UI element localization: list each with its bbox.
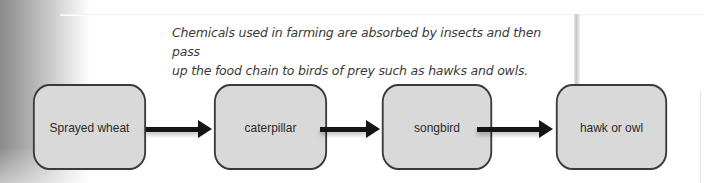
- arrow-caterpillar-to-songbird: [320, 125, 382, 133]
- caption-line-1: Chemicals used in farming are absorbed b…: [172, 23, 572, 61]
- page-top-edge: [60, 14, 704, 16]
- page-right-edge: [700, 90, 701, 183]
- node-songbird: songbird: [382, 84, 492, 170]
- node-sprayed-wheat: Sprayed wheat: [33, 84, 146, 170]
- page-fold-divider: [574, 14, 580, 86]
- node-label: Sprayed wheat: [50, 120, 130, 135]
- node-label: hawk or owl: [580, 120, 643, 135]
- arrow-shaft: [477, 127, 541, 132]
- node-label: songbird: [414, 120, 460, 135]
- node-label: caterpillar: [245, 120, 297, 135]
- arrow-songbird-to-hawk: [477, 125, 555, 133]
- arrow-shaft: [320, 127, 368, 132]
- arrow-wheat-to-caterpillar: [146, 125, 212, 133]
- diagram-caption: Chemicals used in farming are absorbed b…: [172, 23, 572, 80]
- arrow-shaft: [146, 127, 200, 132]
- arrow-head-icon: [198, 120, 212, 138]
- node-hawk-or-owl: hawk or owl: [556, 84, 667, 170]
- arrow-head-icon: [366, 120, 380, 138]
- caption-line-2: up the food chain to birds of prey such …: [172, 61, 572, 80]
- node-caterpillar: caterpillar: [214, 84, 327, 170]
- arrow-head-icon: [539, 120, 553, 138]
